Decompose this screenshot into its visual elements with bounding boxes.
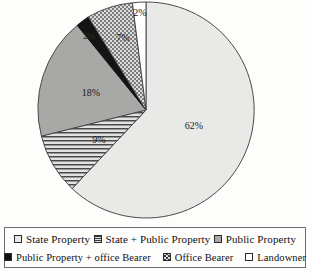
legend-label-public-property: Public Property (226, 233, 296, 246)
state-public-property-swatch (94, 235, 102, 243)
public-property-swatch (214, 235, 222, 243)
legend-row-1: State Property State + Public Property P… (8, 230, 302, 248)
pie-chart-svg: 62% 9% 18% 2% 7% 2% (0, 0, 312, 222)
legend-item-landowner[interactable]: Landowner (245, 251, 306, 264)
legend-label-state-property: State Property (26, 233, 90, 246)
legend-item-public-property[interactable]: Public Property (214, 233, 296, 246)
legend-label-state-plus-public-property: State + Public Property (106, 233, 211, 246)
legend-label-office-bearer: Office Bearer (175, 251, 234, 264)
legend-item-state-plus-public-property[interactable]: State + Public Property (94, 233, 211, 246)
legend-item-public-property-plus-office-bearer[interactable]: Public Property + office Bearer (4, 251, 151, 264)
pie-label-public-property: 18% (82, 87, 100, 98)
landowner-swatch (245, 253, 253, 261)
pie-label-landowner: 2% (133, 7, 146, 18)
legend-label-public-property-plus-office-bearer: Public Property + office Bearer (16, 251, 151, 264)
legend-item-state-property[interactable]: State Property (14, 233, 90, 246)
legend-item-office-bearer[interactable]: Office Bearer (163, 251, 234, 264)
office-bearer-swatch (163, 253, 171, 261)
state-property-swatch (14, 235, 22, 243)
pie-label-office-bearer: 7% (116, 32, 129, 43)
pie-label-public-property-plus-office-bearer: 2% (83, 31, 96, 41)
pie-chart-figure: 62% 9% 18% 2% 7% 2% (0, 0, 312, 222)
pie-label-state-plus-public-property: 9% (92, 134, 105, 145)
legend-label-landowner: Landowner (257, 251, 306, 264)
chart-legend: State Property State + Public Property P… (4, 227, 306, 268)
legend-row-2: Public Property + office Bearer Office B… (8, 248, 302, 266)
pie-label-state-property: 62% (185, 120, 203, 131)
public-property-office-bearer-swatch (4, 253, 12, 261)
